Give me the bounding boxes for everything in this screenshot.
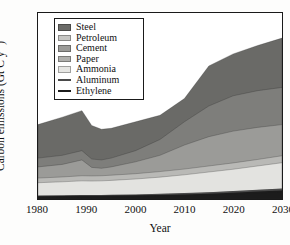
x-axis-tick-minor-top bbox=[258, 12, 259, 13]
x-tick-label-1980: 1980 bbox=[26, 203, 48, 215]
legend-item-ethylene[interactable]: Ethylene bbox=[58, 86, 139, 97]
x-axis-tick-major bbox=[233, 199, 234, 200]
x-axis-tick-minor bbox=[111, 199, 112, 200]
y-axis-title-exponent: -1 bbox=[0, 45, 1, 52]
y-axis-tick-major bbox=[37, 48, 38, 49]
legend-label-steel: Steel bbox=[76, 22, 96, 33]
y-axis-title: Carbon emissions (Gt C y-1) bbox=[0, 41, 6, 171]
x-tick-label-2000: 2000 bbox=[124, 203, 146, 215]
x-axis-title: Year bbox=[149, 222, 170, 234]
x-axis-tick-minor-top bbox=[160, 12, 161, 13]
y-axis-tick-major-right bbox=[282, 48, 283, 49]
x-tick-label-2020: 2020 bbox=[223, 203, 245, 215]
y-axis-tick-minor-right bbox=[282, 67, 283, 68]
x-tick-label-1990: 1990 bbox=[75, 203, 97, 215]
x-axis-tick-major-top bbox=[87, 12, 88, 13]
x-axis-tick-major-top bbox=[184, 12, 185, 13]
legend-color-swatch-paper bbox=[58, 56, 71, 63]
y-axis-title-close: ) bbox=[0, 41, 6, 45]
y-axis-tick-major bbox=[37, 86, 38, 87]
x-axis-tick-minor-top bbox=[62, 12, 63, 13]
x-tick-label-2030: 2030 bbox=[272, 203, 290, 215]
x-axis-tick-major-top bbox=[233, 12, 234, 13]
x-axis-tick-major bbox=[184, 199, 185, 200]
x-axis-tick-major bbox=[87, 199, 88, 200]
y-axis-tick-minor-right bbox=[282, 30, 283, 31]
x-tick-label-2010: 2010 bbox=[174, 203, 196, 215]
y-axis-tick-major bbox=[37, 199, 38, 200]
figure: Carbon emissions (Gt C y-1) Year 0 0.4 0… bbox=[0, 0, 290, 245]
x-axis-tick-minor bbox=[160, 199, 161, 200]
y-axis-tick-minor bbox=[37, 67, 38, 68]
x-axis-tick-minor bbox=[258, 199, 259, 200]
legend-color-swatch-ammonia bbox=[58, 66, 71, 73]
y-axis-tick-minor-right bbox=[282, 105, 283, 106]
legend-color-swatch-cement bbox=[58, 45, 71, 52]
legend-color-swatch-steel bbox=[58, 24, 71, 31]
y-axis-tick-minor bbox=[37, 30, 38, 31]
legend-color-swatch-petroleum bbox=[58, 35, 71, 42]
legend-line-swatch-aluminum bbox=[58, 79, 71, 81]
y-axis-tick-major-right bbox=[282, 199, 283, 200]
x-axis-tick-minor bbox=[62, 199, 63, 200]
legend-line-swatch-ethylene bbox=[58, 90, 71, 92]
legend-item-steel[interactable]: Steel bbox=[58, 22, 139, 33]
x-axis-tick-minor-top bbox=[209, 12, 210, 13]
legend-label-ethylene: Ethylene bbox=[76, 86, 112, 97]
x-axis-tick-major bbox=[136, 199, 137, 200]
y-axis-tick-major bbox=[37, 161, 38, 162]
x-axis-tick-minor bbox=[209, 199, 210, 200]
x-axis-tick-minor-top bbox=[111, 12, 112, 13]
y-axis-tick-major-right bbox=[282, 161, 283, 162]
y-axis-tick-major bbox=[37, 124, 38, 125]
legend-item-aluminum[interactable]: Aluminum bbox=[58, 75, 139, 86]
chart-legend: SteelPetroleumCementPaperAmmoniaAluminum… bbox=[54, 18, 144, 100]
y-axis-tick-minor bbox=[37, 180, 38, 181]
y-axis-tick-major-right bbox=[282, 86, 283, 87]
x-axis-tick-major-top bbox=[136, 12, 137, 13]
y-axis-tick-minor bbox=[37, 105, 38, 106]
y-axis-tick-major-right bbox=[282, 124, 283, 125]
y-axis-tick-minor-right bbox=[282, 180, 283, 181]
y-axis-title-main: Carbon emissions (Gt C y bbox=[0, 52, 6, 171]
y-axis-tick-minor bbox=[37, 142, 38, 143]
legend-label-aluminum: Aluminum bbox=[76, 75, 119, 86]
y-axis-tick-minor-right bbox=[282, 142, 283, 143]
